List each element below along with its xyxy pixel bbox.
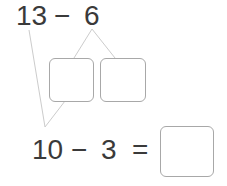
operator-minus: − (54, 2, 70, 30)
equation-operator: − (71, 136, 87, 164)
subtrahend: 6 (84, 2, 100, 30)
decomposition-box-1[interactable] (49, 58, 94, 102)
decomposition-box-2[interactable] (100, 58, 146, 102)
answer-box[interactable] (160, 126, 214, 177)
equation-right: 3 (101, 136, 117, 164)
equals-sign: = (132, 136, 148, 164)
equation-left: 10 (32, 136, 63, 164)
minuend: 13 (16, 2, 47, 30)
